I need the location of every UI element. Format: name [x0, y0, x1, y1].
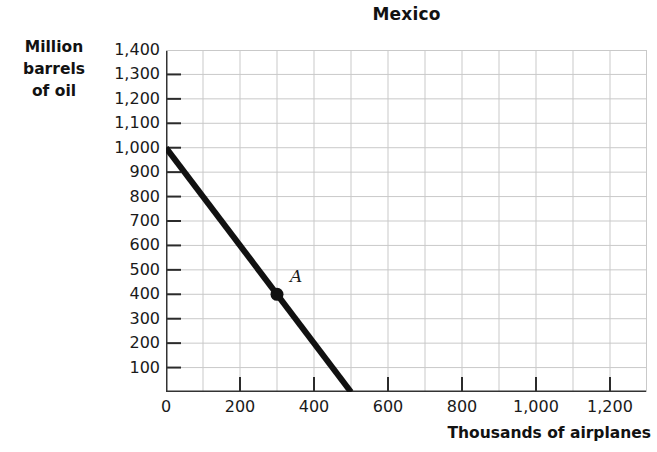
y-tick-label: 400 [90, 286, 160, 302]
y-tick-label: 1,300 [90, 66, 160, 82]
x-axis-tick-labels: 02004006008001,0001,200 [0, 398, 657, 422]
y-tick-label: 200 [90, 335, 160, 351]
y-axis-label-line-2: barrels [8, 58, 100, 80]
x-tick-label: 400 [274, 398, 354, 416]
x-axis-label: Thousands of airplanes [0, 424, 651, 442]
chart-title: Mexico [166, 4, 647, 24]
y-axis-label-line-1: Million [8, 36, 100, 58]
y-tick-label: 1,400 [90, 42, 160, 58]
y-tick-label: 1,000 [90, 140, 160, 156]
y-tick-label: 1,100 [90, 115, 160, 131]
y-tick-label: 500 [90, 262, 160, 278]
plot-area [166, 50, 647, 392]
point-markers [271, 288, 284, 301]
y-axis-label: Million barrels of oil [8, 36, 100, 102]
x-tick-label: 600 [348, 398, 428, 416]
point-label-a: A [290, 266, 302, 286]
y-tick-label: 600 [90, 237, 160, 253]
x-tick-label: 1,000 [496, 398, 576, 416]
y-axis-label-line-3: of oil [8, 80, 100, 102]
y-tick-label: 300 [90, 311, 160, 327]
ppf-chart: Mexico Million barrels of oil 1002003004… [0, 0, 657, 452]
y-tick-label: 1,200 [90, 91, 160, 107]
horizontal-gridlines [166, 74, 647, 367]
y-tick-label: 700 [90, 213, 160, 229]
x-tick-label: 200 [200, 398, 280, 416]
y-axis-tick-labels: 1002003004005006007008009001,0001,1001,2… [88, 0, 160, 452]
x-tick-label: 1,200 [570, 398, 650, 416]
plot-svg [166, 50, 647, 392]
y-tick-label: 900 [90, 164, 160, 180]
y-tick-label: 800 [90, 189, 160, 205]
x-tick-label: 0 [126, 398, 206, 416]
x-tick-label: 800 [422, 398, 502, 416]
y-tick-label: 100 [90, 360, 160, 376]
y-axis-tick-marks [167, 50, 181, 368]
